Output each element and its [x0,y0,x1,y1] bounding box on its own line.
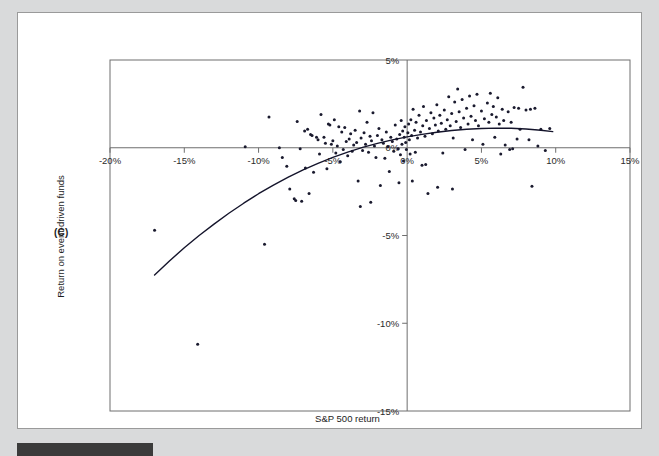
scatter-point [267,116,270,119]
scatter-point [462,116,465,119]
scatter-point [352,144,355,147]
scatter-point [345,140,348,143]
scatter-point [530,185,533,188]
scatter-point [380,138,383,141]
scatter-point [481,143,484,146]
scatter-point [300,200,303,203]
scatter-point [388,170,391,173]
scatter-point [328,123,331,126]
scatter-point [440,122,443,125]
scatter-point [364,143,367,146]
scatter-point [311,134,314,137]
scatter-point [386,145,389,148]
scatter-point [464,148,467,151]
scatter-point [406,131,409,134]
scatter-point [434,123,437,126]
scatter-point [486,101,489,104]
scatter-point [449,124,452,127]
scatter-point [312,171,315,174]
scatter-point [397,181,400,184]
scatter-point [447,95,450,98]
y-axis-tick-label: 5% [385,55,399,66]
scatter-point [374,156,377,159]
scatter-point [498,123,501,126]
scatter-point [429,111,432,114]
scatter-point [337,125,340,128]
scatter-point [443,109,446,112]
scatter-point [421,164,424,167]
scatter-point [533,107,536,110]
scatter-point [510,121,513,124]
scatter-point [281,156,284,159]
scatter-point [435,103,438,106]
scatter-point [400,119,403,122]
scatter-point [322,136,325,139]
x-axis-tick-label: -10% [247,155,270,166]
scatter-point [493,136,496,139]
scatter-point [489,92,492,95]
x-axis-title: S&P 500 return [18,413,659,424]
scatter-point [511,147,514,150]
scatter-point [383,157,386,160]
scatter-point [492,105,495,108]
scatter-point [467,123,470,126]
scatter-point [436,186,439,189]
footer-bar [17,443,153,456]
scatter-point [331,139,334,142]
scatter-point [370,139,373,142]
scatter-point [398,133,401,136]
scatter-point [474,119,477,122]
scatter-point [473,104,476,107]
scatter-point [288,187,291,190]
scatter-point [394,123,397,126]
scatter-point [529,108,532,111]
scatter-point [425,119,428,122]
scatter-point [340,130,343,133]
scatter-point [450,112,453,115]
scatter-point [411,180,414,183]
scatter-point [502,119,505,122]
scatter-point [349,132,352,135]
y-axis-tick-label: -10% [377,318,400,329]
scatter-point [441,152,444,155]
scatter-point [376,134,379,137]
scatter-points [153,86,551,346]
scatter-point [377,127,380,130]
scatter-point [366,121,369,124]
scatter-point [339,160,342,163]
scatter-point [461,98,464,101]
scatter-point [294,199,297,202]
scatter-point [367,151,370,154]
scatter-point [456,87,459,90]
scatter-point [333,118,336,121]
scatter-point [355,141,358,144]
scatter-point [342,148,345,151]
scatter-point [404,141,407,144]
scatter-point [263,243,266,246]
scatter-point [501,108,504,111]
scatter-point [399,153,402,156]
scatter-point [446,118,449,121]
scatter-point [504,144,507,147]
scatter-point [153,229,156,232]
scatter-point [475,93,478,96]
scatter-point [278,146,281,149]
scatter-point [315,136,318,139]
scatter-point [483,117,486,120]
scatter-point [451,187,454,190]
scatter-point [496,96,499,99]
scatter-point [418,114,421,117]
scatter-point [336,144,339,147]
scatter-point [299,147,302,150]
scatter-point [409,118,412,121]
scatter-point [409,152,412,155]
scatter-point [414,151,417,154]
scatter-point [465,107,468,110]
scatter-point [468,94,471,97]
scatter-point [318,152,321,155]
scatter-plot: -20%-15%-10%-5%0%5%10%15%5%0%-5%-10%-15% [18,13,659,456]
scatter-point [525,109,528,112]
scatter-point [385,130,388,133]
scatter-point [379,184,382,187]
scatter-point [358,109,361,112]
